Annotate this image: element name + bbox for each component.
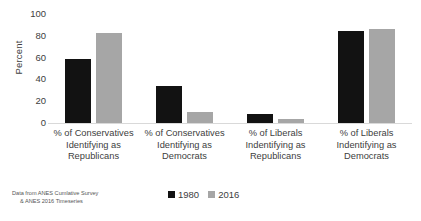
category-label-line: % of Liberals (224, 128, 327, 140)
category-label-line: Democrats (133, 151, 236, 163)
category-label-line: Identifying as (133, 140, 236, 152)
y-axis-tick-label: 40 (22, 74, 46, 84)
x-axis-category-labels: % of ConservativesIdentifying asRepublic… (48, 128, 412, 174)
bar-1980[interactable] (247, 114, 273, 123)
bar-2016[interactable] (187, 112, 213, 123)
chart-legend: 19802016 (168, 189, 239, 200)
bar-2016[interactable] (369, 29, 395, 123)
bar-group (321, 14, 412, 123)
source-note: Data from ANES Cumlative Survey& ANES 20… (12, 189, 98, 206)
y-axis-tick-label: 80 (22, 31, 46, 41)
y-axis-tick-label: 0 (22, 118, 46, 128)
category-label-line: Identifying as (42, 140, 145, 152)
legend-label: 1980 (178, 189, 199, 200)
bar-group (48, 14, 139, 123)
bar-2016[interactable] (96, 33, 122, 123)
category-label-line: % of Liberals (315, 128, 418, 140)
x-axis-category-label: % of ConservativesIdentifying asRepublic… (42, 128, 145, 163)
bar-chart: Percent 100806040200 % of ConservativesI… (0, 0, 421, 221)
category-label-line: Republicans (224, 151, 327, 163)
bar-1980[interactable] (65, 59, 91, 123)
category-label-line: % of Conservatives (133, 128, 236, 140)
legend-label: 2016 (218, 189, 239, 200)
category-label-line: % of Conservatives (42, 128, 145, 140)
category-label-line: Indentifying as (315, 140, 418, 152)
source-note-line: Data from ANES Cumlative Survey (12, 189, 98, 197)
source-note-line: & ANES 2016 Timeseries (12, 197, 98, 205)
y-axis-tick-label: 100 (22, 9, 46, 19)
bar-group (139, 14, 230, 123)
y-axis-tick-labels: 100806040200 (22, 0, 46, 221)
y-axis-tick-label: 20 (22, 96, 46, 106)
x-axis-category-label: % of LiberalsIndentifying asDemocrats (315, 128, 418, 163)
plot-area (48, 14, 412, 123)
legend-swatch-icon (208, 191, 215, 198)
x-axis-category-label: % of LiberalsIndentifying asRepublicans (224, 128, 327, 163)
category-label-line: Democrats (315, 151, 418, 163)
legend-swatch-icon (168, 191, 175, 198)
legend-item-1980[interactable]: 1980 (168, 189, 199, 200)
x-axis-line (48, 123, 412, 124)
x-axis-category-label: % of ConservativesIdentifying asDemocrat… (133, 128, 236, 163)
bar-1980[interactable] (156, 86, 182, 123)
legend-item-2016[interactable]: 2016 (208, 189, 239, 200)
bar-group (230, 14, 321, 123)
category-label-line: Republicans (42, 151, 145, 163)
bar-1980[interactable] (338, 31, 364, 123)
y-axis-tick-label: 60 (22, 53, 46, 63)
category-label-line: Indentifying as (224, 140, 327, 152)
